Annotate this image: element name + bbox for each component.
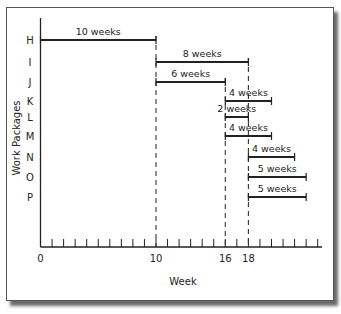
duration-label: 5 weeks	[258, 163, 297, 174]
category-label-P: P	[27, 192, 33, 203]
x-tick-label: 16	[219, 253, 232, 264]
category-label-I: I	[29, 57, 32, 68]
category-label-J: J	[28, 77, 32, 88]
category-label-K: K	[27, 96, 34, 107]
task-bars: 10 weeks8 weeks6 weeks4 weeks2 weeks4 we…	[41, 26, 307, 201]
x-axis-tick-labels: 0101618	[37, 253, 254, 264]
category-label-N: N	[26, 152, 33, 163]
duration-label: 8 weeks	[183, 48, 222, 59]
x-tick-label: 10	[150, 253, 163, 264]
task-bar-H: 10 weeks	[41, 26, 157, 44]
category-label-O: O	[26, 172, 34, 183]
task-bar-P: 5 weeks	[248, 183, 306, 201]
task-bar-O: 5 weeks	[248, 163, 306, 181]
duration-label: 4 weeks	[252, 143, 291, 154]
duration-label: 10 weeks	[76, 26, 121, 37]
category-label-M: M	[26, 131, 35, 142]
y-axis-title: Work Packages	[11, 100, 22, 175]
task-bar-M: 4 weeks	[225, 122, 271, 140]
y-axis-categories: HIJKLMNOP	[26, 35, 35, 203]
x-tick-label: 0	[37, 253, 43, 264]
x-tick-label: 18	[242, 253, 255, 264]
x-axis-ticks	[52, 239, 318, 247]
duration-label: 4 weeks	[229, 87, 268, 98]
category-label-H: H	[26, 35, 34, 46]
task-bar-N: 4 weeks	[248, 143, 294, 161]
category-label-L: L	[27, 112, 33, 123]
duration-label: 6 weeks	[171, 68, 210, 79]
duration-label: 2 weeks	[217, 103, 256, 114]
gantt-chart: 10 weeks8 weeks6 weeks4 weeks2 weeks4 we…	[0, 0, 341, 314]
duration-label: 4 weeks	[229, 122, 268, 133]
task-bar-J: 6 weeks	[156, 68, 225, 86]
task-bar-I: 8 weeks	[156, 48, 248, 66]
duration-label: 5 weeks	[258, 183, 297, 194]
task-bar-L: 2 weeks	[217, 103, 256, 121]
x-axis-title: Week	[169, 276, 197, 287]
